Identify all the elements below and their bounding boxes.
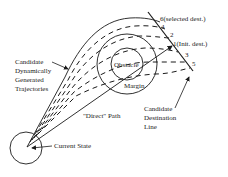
- label-margin: Margin: [124, 82, 145, 90]
- direct-path-arrow: [27, 46, 172, 147]
- label-obstacle: Obstacle: [114, 61, 139, 69]
- label-destination-line-2: Destination: [144, 114, 177, 122]
- destination-line-pointer: [175, 77, 189, 108]
- destination-4: 4: [161, 23, 165, 31]
- destination-1: 1(Init. dest.): [173, 40, 208, 48]
- current-state-circle: [10, 132, 42, 164]
- label-candidate-trajectories-1: Candidate: [15, 58, 43, 66]
- trajectory-diagram: Candidate Dynamically Generated Trajecto…: [0, 0, 228, 177]
- label-candidate-trajectories-2: Dynamically: [15, 67, 52, 75]
- destination-2: 2: [170, 31, 174, 39]
- label-current-state: Current State: [54, 142, 91, 150]
- label-direct-path: "Direct" Path: [83, 112, 121, 120]
- label-candidate-trajectories-4: Trajectories: [15, 85, 48, 93]
- label-candidate-trajectories-3: Generated: [15, 76, 44, 84]
- destination-5: 5: [192, 60, 196, 68]
- destination-3: 3: [185, 51, 189, 59]
- label-destination-line-3: Line: [144, 123, 157, 131]
- candidate-trajectories-pointer: [52, 62, 68, 69]
- candidate-trajectories: [30, 26, 190, 142]
- destination-6: 6(selected dest.): [160, 15, 206, 23]
- label-destination-line-1: Candidate: [144, 105, 172, 113]
